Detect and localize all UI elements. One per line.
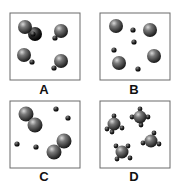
small-atom	[131, 39, 136, 44]
panel-b-label: B	[124, 83, 144, 97]
small-atom	[53, 106, 58, 111]
panel-c-label: C	[34, 170, 54, 184]
large-atom	[112, 56, 126, 70]
small-atom	[14, 141, 19, 146]
panel-c	[10, 101, 80, 168]
small-atom	[130, 27, 135, 32]
large-atom	[143, 23, 157, 37]
panel-a-label: A	[34, 83, 54, 97]
small-atom	[33, 144, 38, 149]
small-atom	[65, 115, 70, 120]
large-atom	[147, 49, 161, 63]
panel-a	[10, 13, 80, 80]
large-atom	[109, 19, 123, 33]
small-atom	[111, 47, 116, 52]
panel-d-label: D	[124, 170, 144, 184]
panel-d	[100, 101, 170, 168]
panel-b	[100, 13, 170, 80]
particle-diagrams	[0, 0, 184, 185]
panel-d-border	[100, 101, 170, 168]
small-atom	[135, 66, 140, 71]
